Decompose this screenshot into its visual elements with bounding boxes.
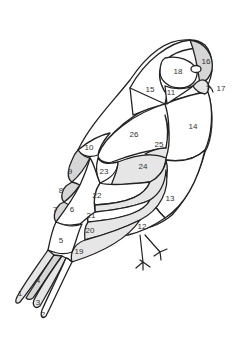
piece-label-5: 5 [59,237,63,245]
piece-label-23: 23 [100,168,109,176]
piece-label-20: 20 [86,227,95,235]
piece-label-3: 3 [36,299,40,307]
piece-label-21: 21 [87,212,96,220]
piece-label-6: 6 [70,206,74,214]
piece-label-8: 8 [59,187,63,195]
piece-label-4: 4 [36,277,40,285]
piece-label-12: 12 [138,223,147,231]
piece-label-13: 13 [166,195,175,203]
leg-left [136,235,150,270]
piece-label-7: 7 [53,206,57,214]
bird-pattern-drawing [0,0,246,344]
piece-label-22: 22 [93,192,102,200]
piece-label-1: 1 [18,290,22,298]
piece-label-11: 11 [167,89,175,97]
piece-label-9: 9 [68,168,72,176]
piece-label-15: 15 [146,86,155,94]
piece-label-16: 16 [202,58,211,66]
piece-label-18: 18 [174,68,183,76]
leg-right [145,235,167,260]
piece-label-24: 24 [139,163,148,171]
piece-label-14: 14 [189,123,198,131]
piece-label-17: 17 [217,85,226,93]
eye-icon [191,66,201,73]
piece-label-25: 25 [155,141,164,149]
piece-label-2: 2 [41,311,45,319]
piece-label-19: 19 [75,248,84,256]
piece-label-10: 10 [85,144,94,152]
piece-label-26: 26 [130,131,139,139]
